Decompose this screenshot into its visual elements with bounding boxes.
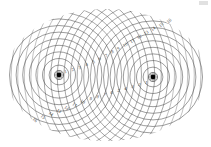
wave-interference-diagram: 1234567891011121314151612345678910111213… <box>0 0 211 147</box>
source-point-marker <box>57 73 62 78</box>
figure-background <box>0 0 211 147</box>
source-point-marker <box>151 75 156 80</box>
corner-artifact-speck <box>199 1 208 5</box>
wave-interference-figure: 1234567891011121314151612345678910111213… <box>0 0 211 147</box>
